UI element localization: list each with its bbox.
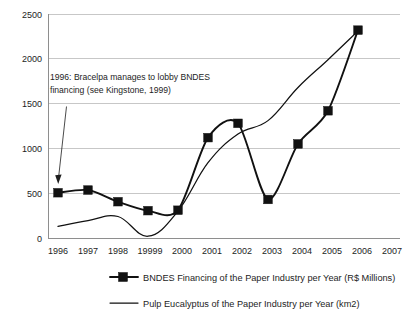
y-axis-tick-labels: 2500 2000 1500 1000 500 0 xyxy=(22,10,42,244)
x-tick-1999: 19999 xyxy=(137,246,162,256)
series-line-bndes-financing xyxy=(58,30,358,215)
y-tick-500: 500 xyxy=(27,189,42,199)
annotation-bracelpa: 1996: Bracelpa manages to lobby BNDES fi… xyxy=(50,72,210,184)
x-tick-2001: 2001 xyxy=(202,246,222,256)
annotation-arrow-head xyxy=(55,175,61,185)
y-tick-0: 0 xyxy=(37,234,42,244)
data-point-marker xyxy=(144,206,153,215)
chart-plot-area: 2500 2000 1500 1000 500 0 1996 1997 1998… xyxy=(0,0,418,320)
data-point-marker xyxy=(234,119,243,128)
data-point-marker xyxy=(84,186,93,195)
data-point-marker xyxy=(354,26,363,35)
y-tick-1000: 1000 xyxy=(22,144,42,154)
data-point-marker xyxy=(174,206,183,215)
x-tick-2004: 2004 xyxy=(292,246,312,256)
x-axis-tick-labels: 1996 1997 1998 19999 2000 2001 2002 2003… xyxy=(48,246,402,256)
annotation-line-1: 1996: Bracelpa manages to lobby BNDES xyxy=(50,72,210,82)
data-point-marker xyxy=(114,197,123,206)
x-tick-1996: 1996 xyxy=(48,246,68,256)
annotation-arrow-line xyxy=(59,107,67,179)
y-tick-2500: 2500 xyxy=(22,10,42,20)
chart-legend: BNDES Financing of the Paper Industry pe… xyxy=(110,273,395,309)
y-tick-1500: 1500 xyxy=(22,99,42,109)
x-tick-2000: 2000 xyxy=(172,246,192,256)
chart-figure: 2500 2000 1500 1000 500 0 1996 1997 1998… xyxy=(0,0,418,320)
x-tick-2006: 2006 xyxy=(352,246,372,256)
legend-label-pulp: Pulp Eucalyptus of the Paper Industry pe… xyxy=(143,299,360,309)
data-point-marker xyxy=(204,133,213,142)
x-tick-1997: 1997 xyxy=(78,246,98,256)
data-point-marker xyxy=(324,106,333,115)
data-point-marker xyxy=(294,140,303,149)
x-tick-2007: 2007 xyxy=(382,246,402,256)
series-markers-bndes-financing xyxy=(54,26,363,215)
data-point-marker xyxy=(54,188,63,197)
x-tick-2003: 2003 xyxy=(262,246,282,256)
y-tick-2000: 2000 xyxy=(22,54,42,64)
x-tick-2005: 2005 xyxy=(322,246,342,256)
legend-swatch-bndes-marker xyxy=(119,273,128,282)
x-tick-1998: 1998 xyxy=(108,246,128,256)
legend-label-bndes: BNDES Financing of the Paper Industry pe… xyxy=(143,273,395,283)
legend-item-pulp[interactable]: Pulp Eucalyptus of the Paper Industry pe… xyxy=(110,299,360,309)
annotation-line-2: financing (see Kingstone, 1999) xyxy=(50,85,171,95)
x-tick-2002: 2002 xyxy=(232,246,252,256)
data-point-marker xyxy=(264,195,273,204)
legend-item-bndes[interactable]: BNDES Financing of the Paper Industry pe… xyxy=(110,273,395,283)
